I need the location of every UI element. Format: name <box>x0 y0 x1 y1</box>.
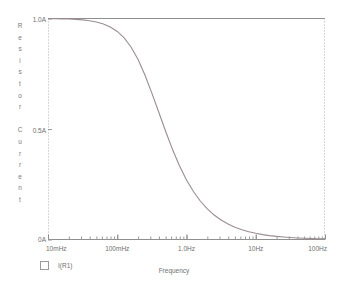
y-tick-label-1a: 1.0A <box>20 16 46 23</box>
y-tick-label-0a: 0A <box>20 236 46 243</box>
y-tick-label-05a: 0.5A <box>20 127 46 134</box>
x-tick-label-100hz: 100Hz <box>267 245 327 252</box>
data-series-line <box>48 19 325 239</box>
x-tick-label-100mhz: 100mHz <box>87 245 147 252</box>
legend-square-marker-icon[interactable] <box>40 261 49 270</box>
chart-container: ResistorCurrent 1.0A 0.5A 0A 10mHz 100mH… <box>0 0 348 294</box>
chart-legend[interactable]: I(R1) <box>40 261 72 270</box>
x-tick-label-1hz: 1.0Hz <box>157 245 217 252</box>
legend-series-label: I(R1) <box>58 262 72 269</box>
